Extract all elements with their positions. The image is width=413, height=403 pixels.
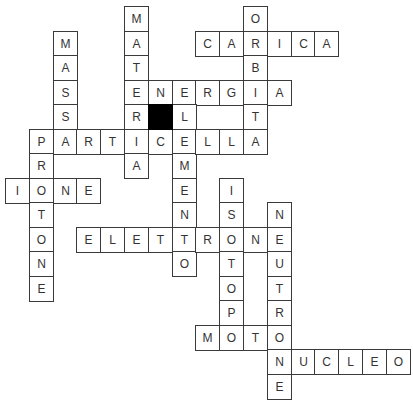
crossword-cell[interactable]: U [291,349,316,375]
crossword-cell[interactable]: E [29,276,54,302]
crossword-cell[interactable]: S [219,202,244,228]
crossword-cell[interactable]: T [29,202,54,228]
crossword-cell[interactable]: R [243,31,268,57]
crossword-cell[interactable]: O [29,178,54,204]
crossword-cell[interactable]: T [172,227,197,253]
crossword-cell[interactable]: T [219,251,244,277]
crossword-cell[interactable]: A [53,129,78,155]
crossword-cell[interactable]: R [267,300,292,326]
crossword-cell[interactable]: C [195,31,220,57]
crossword-cell[interactable]: E [76,178,101,204]
crossword-cell[interactable]: N [29,251,54,277]
crossword-cell[interactable]: O [219,227,244,253]
crossword-cell[interactable]: R [195,227,220,253]
crossword-cell[interactable]: M [195,325,220,351]
crossword-cell[interactable]: O [267,325,292,351]
crossword-cell[interactable]: B [243,55,268,81]
crossword-cell[interactable]: L [219,129,244,155]
crossword-cell[interactable]: R [124,104,149,130]
crossword-cell[interactable]: U [267,251,292,277]
crossword-cell[interactable]: E [172,129,197,155]
crossword-cell[interactable]: S [53,80,78,106]
crossword-cell[interactable]: O [219,325,244,351]
crossword-cell[interactable]: I [124,129,149,155]
crossword-cell[interactable]: L [100,227,125,253]
crossword-cell[interactable]: I [243,80,268,106]
crossword-cell[interactable]: M [124,6,149,32]
crossword-cell[interactable]: R [29,153,54,179]
crossword-cell[interactable]: A [124,31,149,57]
crossword-cell[interactable]: A [219,31,244,57]
crossword-cell[interactable]: E [124,80,149,106]
crossword-cell[interactable]: O [386,349,411,375]
crossword-cell[interactable]: C [291,31,316,57]
crossword-cell[interactable]: I [5,178,30,204]
crossword-cell[interactable]: N [243,227,268,253]
crossword-cell[interactable]: C [314,349,339,375]
crossword-cell[interactable]: R [195,80,220,106]
crossword-cell[interactable]: O [29,227,54,253]
crossword-cell[interactable]: T [124,55,149,81]
crossword-cell[interactable]: N [267,202,292,228]
crossword-cell[interactable]: N [267,349,292,375]
crossword-cell[interactable]: E [172,80,197,106]
crossword-cell[interactable]: I [219,178,244,204]
crossword-cell[interactable]: C [148,129,173,155]
crossword-cell[interactable]: E [267,374,292,400]
crossword-cell[interactable]: E [76,227,101,253]
crossword-cell[interactable]: N [53,178,78,204]
crossword-cell[interactable]: E [267,227,292,253]
crossword-cell[interactable]: M [53,31,78,57]
crossword-cell[interactable]: N [172,202,197,228]
crossword-cell[interactable]: T [243,325,268,351]
crossword-cell[interactable]: L [338,349,363,375]
crossword-cell[interactable]: S [53,104,78,130]
crossword-cell[interactable]: O [243,6,268,32]
crossword-cell[interactable]: A [314,31,339,57]
crossword-cell[interactable]: O [219,276,244,302]
crossword-cell[interactable]: E [362,349,387,375]
crossword-cell[interactable]: P [29,129,54,155]
crossword-cell[interactable]: L [195,129,220,155]
crossword-cell[interactable]: E [172,178,197,204]
crossword-cell[interactable]: O [172,251,197,277]
crossword-cell[interactable]: A [243,129,268,155]
crossword-cell[interactable]: G [219,80,244,106]
crossword-cell[interactable]: N [148,80,173,106]
crossword-cell[interactable]: M [172,153,197,179]
crossword-cell[interactable]: A [124,153,149,179]
crossword-cell[interactable]: A [267,80,292,106]
crossword-cell[interactable]: R [76,129,101,155]
crossword-cell[interactable]: I [267,31,292,57]
crossword-cell[interactable]: T [243,104,268,130]
crossword-cell[interactable]: T [267,276,292,302]
crossword-cell[interactable]: P [219,300,244,326]
crossword-cell[interactable]: E [124,227,149,253]
crossword-cell[interactable]: L [172,104,197,130]
crossword-grid: MATERIAORBITACAICAMASSANERGALEMENTOPRTCL… [0,0,413,403]
crossword-cell[interactable]: T [148,227,173,253]
crossword-cell[interactable]: T [100,129,125,155]
crossword-cell[interactable]: A [53,55,78,81]
black-cell [148,104,173,130]
